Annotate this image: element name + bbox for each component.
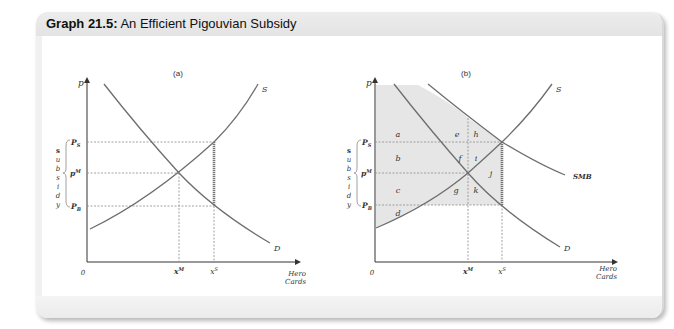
x-axis-label-line1: Hero <box>287 270 306 278</box>
demand-label: D <box>563 244 571 253</box>
x-axis-label-line1: Hero <box>598 265 617 273</box>
supply-label: S <box>262 85 268 94</box>
supply-label: S <box>556 85 562 94</box>
price-seller-label: PS <box>361 138 372 148</box>
svg-text:i: i <box>348 183 350 191</box>
x-axis-label-line2: Cards <box>285 278 306 286</box>
svg-text:u: u <box>347 156 352 164</box>
area-b: b <box>395 154 400 163</box>
price-seller-label: PS <box>70 138 81 148</box>
svg-text:d: d <box>347 192 352 200</box>
area-e: e <box>455 130 460 139</box>
quantity-market-label: xM <box>173 266 184 276</box>
subsidy-bracket <box>63 140 70 207</box>
guide-lines <box>87 142 214 262</box>
y-axis-label: p <box>366 78 372 88</box>
area-c: c <box>396 186 401 195</box>
area-a: a <box>396 130 401 139</box>
area-k: k <box>474 186 479 195</box>
quantity-market-label: xM <box>462 266 473 276</box>
area-h: h <box>473 130 478 139</box>
svg-text:s: s <box>347 174 351 182</box>
price-market-label: pM <box>70 168 81 178</box>
quantity-subsidy-label: xS <box>210 266 218 276</box>
panel-b: (b) p 0 Hero Cards S D SMB PS pM PB <box>346 69 617 281</box>
svg-text:y: y <box>346 201 352 209</box>
origin-label: 0 <box>370 269 375 277</box>
x-axis-label-line2: Cards <box>596 273 617 281</box>
panel-a-label: (a) <box>173 69 183 78</box>
quantity-subsidy-label: xS <box>498 266 506 276</box>
svg-text:s: s <box>56 174 60 182</box>
svg-text:d: d <box>56 192 61 200</box>
demand-label: D <box>273 244 281 253</box>
subsidy-bracket <box>354 140 361 206</box>
area-g: g <box>453 186 458 195</box>
panel-a: (a) p 0 Hero Cards S D PS pM PB s u <box>55 69 306 286</box>
price-buyer-label: PB <box>70 202 81 212</box>
svg-text:b: b <box>56 165 61 173</box>
demand-curve <box>104 84 270 243</box>
panel-b-label: (b) <box>461 69 471 78</box>
subsidy-vertical-label: s u b s i d y <box>346 146 352 209</box>
svg-text:u: u <box>56 156 61 164</box>
supply-curve <box>90 84 258 229</box>
price-buyer-label: PB <box>361 201 372 211</box>
subsidy-vertical-label: s u b s i d y <box>55 146 61 209</box>
svg-text:y: y <box>55 201 61 209</box>
price-market-label: pM <box>361 168 372 178</box>
y-axis-label: p <box>78 78 84 88</box>
svg-text:i: i <box>57 183 59 191</box>
area-i: i <box>475 154 478 163</box>
svg-text:b: b <box>347 165 352 173</box>
svg-text:s: s <box>56 146 60 155</box>
origin-label: 0 <box>81 269 86 277</box>
graph-canvas: (a) p 0 Hero Cards S D PS pM PB s u <box>0 0 674 329</box>
area-d: d <box>395 209 400 218</box>
smb-label: SMB <box>573 172 592 181</box>
svg-text:s: s <box>347 146 351 155</box>
